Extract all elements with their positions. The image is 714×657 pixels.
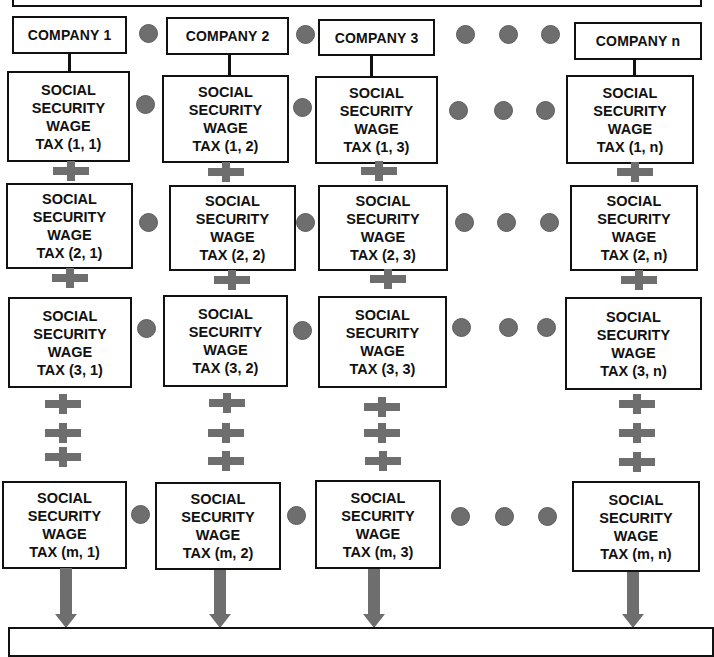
ellipsis-dot bbox=[537, 318, 556, 337]
tax-cell-2-2: SOCIAL SECURITY WAGE TAX (2, 2) bbox=[169, 185, 296, 271]
ellipsis-dot bbox=[287, 506, 306, 525]
cell-line: WAGE bbox=[210, 228, 254, 246]
tax-cell-3-1: SOCIAL SECURITY WAGE TAX (3, 1) bbox=[8, 297, 132, 388]
tax-cell-1-3: SOCIAL SECURITY WAGE TAX (1, 3) bbox=[315, 76, 438, 164]
cell-line: SOCIAL bbox=[37, 489, 92, 507]
cell-line: WAGE bbox=[611, 344, 655, 362]
cell-line: SECURITY bbox=[599, 509, 672, 527]
down-arrow-icon bbox=[363, 569, 385, 628]
down-arrow-icon bbox=[55, 568, 77, 628]
ellipsis-dot bbox=[137, 319, 156, 338]
connector-line bbox=[633, 59, 636, 76]
cell-line: SECURITY bbox=[340, 102, 413, 120]
cell-label: TAX (1, 1) bbox=[36, 135, 102, 153]
cell-line: SECURITY bbox=[597, 210, 670, 228]
tax-cell-m-2: SOCIAL SECURITY WAGE TAX (m, 2) bbox=[155, 482, 281, 570]
tax-cell-2-n: SOCIAL SECURITY WAGE TAX (2, n) bbox=[570, 185, 698, 271]
ellipsis-dot bbox=[136, 95, 155, 114]
bottom-total-box bbox=[8, 627, 714, 657]
cell-line: SOCIAL bbox=[198, 83, 253, 101]
down-arrow-icon bbox=[209, 570, 231, 628]
company-1-box: COMPANY 1 bbox=[12, 16, 127, 54]
ellipsis-dot bbox=[495, 507, 514, 526]
cell-line: SECURITY bbox=[346, 324, 419, 342]
cell-line: WAGE bbox=[42, 525, 86, 543]
ellipsis-dot bbox=[541, 25, 560, 44]
ellipsis-dot bbox=[538, 507, 557, 526]
plus-icon bbox=[364, 423, 400, 443]
cell-label: TAX (m, 1) bbox=[29, 543, 100, 561]
cell-line: SOCIAL bbox=[43, 307, 98, 325]
cell-line: SOCIAL bbox=[351, 489, 406, 507]
plus-icon bbox=[617, 162, 653, 182]
cell-label: TAX (m, n) bbox=[600, 545, 671, 563]
cell-line: WAGE bbox=[203, 341, 247, 359]
company-3-box: COMPANY 3 bbox=[318, 19, 435, 56]
cell-label: TAX (2, 2) bbox=[200, 246, 266, 264]
connector-line bbox=[228, 55, 231, 76]
plus-icon bbox=[214, 270, 250, 290]
cell-label: TAX (3, n) bbox=[600, 362, 667, 380]
cell-label: TAX (3, 3) bbox=[350, 360, 416, 378]
tax-cell-3-2: SOCIAL SECURITY WAGE TAX (3, 2) bbox=[163, 295, 288, 387]
cell-line: SOCIAL bbox=[191, 490, 246, 508]
tax-cell-2-3: SOCIAL SECURITY WAGE TAX (2, 3) bbox=[318, 185, 448, 271]
cell-line: SECURITY bbox=[341, 507, 414, 525]
cell-line: WAGE bbox=[203, 119, 247, 137]
plus-icon bbox=[619, 452, 655, 472]
cell-line: WAGE bbox=[47, 226, 91, 244]
cell-label: TAX (1, 3) bbox=[344, 138, 410, 156]
cell-line: WAGE bbox=[356, 525, 400, 543]
company-2-box: COMPANY 2 bbox=[166, 17, 289, 55]
cell-label: TAX (m, 3) bbox=[343, 543, 414, 561]
ellipsis-dot bbox=[452, 318, 471, 337]
cell-line: WAGE bbox=[48, 343, 92, 361]
ellipsis-dot bbox=[293, 98, 312, 117]
plus-icon bbox=[208, 451, 244, 471]
tax-cell-m-n: SOCIAL SECURITY WAGE TAX (m, n) bbox=[572, 481, 700, 572]
cell-line: SOCIAL bbox=[205, 192, 260, 210]
ellipsis-dot bbox=[455, 213, 474, 232]
cell-line: SOCIAL bbox=[41, 81, 96, 99]
cell-line: SOCIAL bbox=[609, 491, 664, 509]
tax-cell-1-1: SOCIAL SECURITY WAGE TAX (1, 1) bbox=[7, 71, 130, 162]
cell-line: SECURITY bbox=[189, 101, 262, 119]
plus-icon bbox=[361, 161, 397, 181]
cell-line: WAGE bbox=[608, 120, 652, 138]
ellipsis-dot bbox=[296, 25, 315, 44]
cell-line: WAGE bbox=[361, 228, 405, 246]
plus-icon bbox=[208, 162, 244, 182]
ellipsis-dot bbox=[499, 318, 518, 337]
ellipsis-dot bbox=[139, 24, 158, 43]
tax-cell-2-1: SOCIAL SECURITY WAGE TAX (2, 1) bbox=[6, 183, 133, 269]
tax-cell-1-2: SOCIAL SECURITY WAGE TAX (1, 2) bbox=[162, 75, 289, 163]
cell-line: SECURITY bbox=[346, 210, 419, 228]
cell-label: TAX (1, n) bbox=[597, 138, 664, 156]
cell-line: SOCIAL bbox=[603, 84, 658, 102]
cell-label: TAX (2, 3) bbox=[350, 246, 416, 264]
cell-line: SOCIAL bbox=[349, 84, 404, 102]
ellipsis-dot bbox=[451, 507, 470, 526]
cell-line: SECURITY bbox=[593, 102, 666, 120]
cell-line: WAGE bbox=[354, 120, 398, 138]
cell-label: TAX (1, 2) bbox=[193, 137, 259, 155]
ellipsis-dot bbox=[536, 101, 555, 120]
connector-line bbox=[68, 53, 71, 72]
cell-line: SECURITY bbox=[33, 208, 106, 226]
plus-icon bbox=[621, 270, 657, 290]
plus-icon bbox=[619, 394, 655, 414]
ellipsis-dot bbox=[497, 213, 516, 232]
tax-cell-m-1: SOCIAL SECURITY WAGE TAX (m, 1) bbox=[2, 481, 127, 569]
plus-icon bbox=[619, 423, 655, 443]
cell-line: WAGE bbox=[360, 342, 404, 360]
ellipsis-dot bbox=[296, 213, 315, 232]
ellipsis-dot bbox=[499, 25, 518, 44]
cell-label: TAX (2, n) bbox=[601, 246, 668, 264]
ellipsis-dot bbox=[293, 321, 312, 340]
plus-icon bbox=[45, 447, 81, 467]
plus-icon bbox=[208, 423, 244, 443]
ellipsis-dot bbox=[456, 25, 475, 44]
ellipsis-dot bbox=[540, 213, 559, 232]
plus-icon bbox=[52, 268, 88, 288]
cell-line: WAGE bbox=[196, 526, 240, 544]
